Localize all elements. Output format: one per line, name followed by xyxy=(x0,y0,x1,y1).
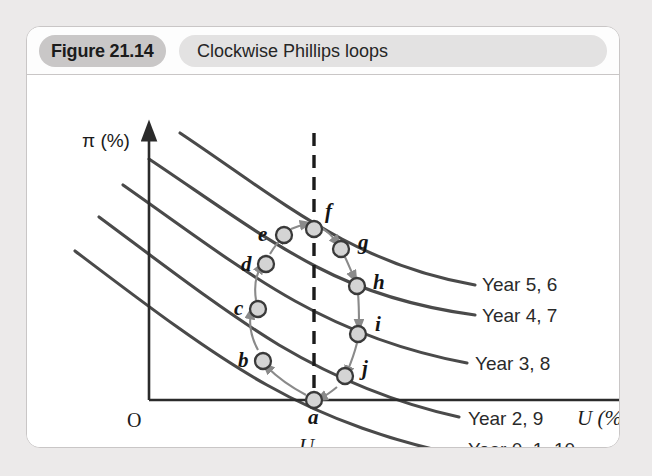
x-axis-label-text: U (%) xyxy=(577,406,620,430)
arrow-c-to-d xyxy=(255,267,261,300)
point-h xyxy=(349,278,365,294)
point-label-b: b xyxy=(238,348,249,372)
curve-labels: Year 5, 6 Year 4, 7 Year 3, 8 Year 2, 9 … xyxy=(468,274,575,447)
curve-label-year-3-8: Year 3, 8 xyxy=(475,353,550,374)
point-e xyxy=(276,227,292,243)
curve-label-year-0-1-10: Year 0, 1, 10 xyxy=(468,439,575,447)
natural-rate-label: Un xyxy=(299,434,321,447)
arrow-a-to-b xyxy=(267,367,306,395)
plot-area: a b c d e f g h i j Year 5, 6 Year 4, 7 … xyxy=(27,75,620,447)
arrow-h-to-i xyxy=(358,293,359,325)
figure-panel: Figure 21.14 Clockwise Phillips loops xyxy=(26,26,620,448)
arrow-g-to-h xyxy=(344,255,354,277)
arrow-j-to-a xyxy=(321,387,337,398)
curve-label-year-4-7: Year 4, 7 xyxy=(482,305,557,326)
loop-points xyxy=(250,221,366,408)
point-c xyxy=(250,301,266,317)
point-label-g: g xyxy=(357,230,369,254)
point-g xyxy=(333,241,349,257)
figure-header: Figure 21.14 Clockwise Phillips loops xyxy=(27,27,619,75)
arrow-e-to-f xyxy=(291,224,306,229)
natural-rate-symbol: U xyxy=(299,434,316,447)
curve-label-year-5-6: Year 5, 6 xyxy=(482,274,557,295)
point-label-j: j xyxy=(359,356,368,380)
point-label-c: c xyxy=(234,296,244,320)
phillips-loops-chart: a b c d e f g h i j Year 5, 6 Year 4, 7 … xyxy=(27,75,620,447)
point-label-h: h xyxy=(373,270,385,294)
origin-label: O xyxy=(127,409,141,431)
point-label-e: e xyxy=(258,222,267,246)
svg-text:Un: Un xyxy=(299,434,321,447)
point-j xyxy=(337,368,353,384)
point-label-d: d xyxy=(241,252,252,276)
point-i xyxy=(350,326,366,342)
point-label-f: f xyxy=(325,199,334,223)
curve-label-year-2-9: Year 2, 9 xyxy=(468,408,543,429)
point-label-i: i xyxy=(375,312,381,336)
point-f xyxy=(306,221,322,237)
point-d xyxy=(258,256,274,272)
figure-number-badge: Figure 21.14 xyxy=(39,35,166,67)
y-axis-label: π (%) xyxy=(82,130,130,151)
point-label-a: a xyxy=(308,405,319,429)
point-b xyxy=(255,353,271,369)
x-axis-label: U (%) xyxy=(577,406,620,430)
figure-title: Clockwise Phillips loops xyxy=(179,35,607,67)
